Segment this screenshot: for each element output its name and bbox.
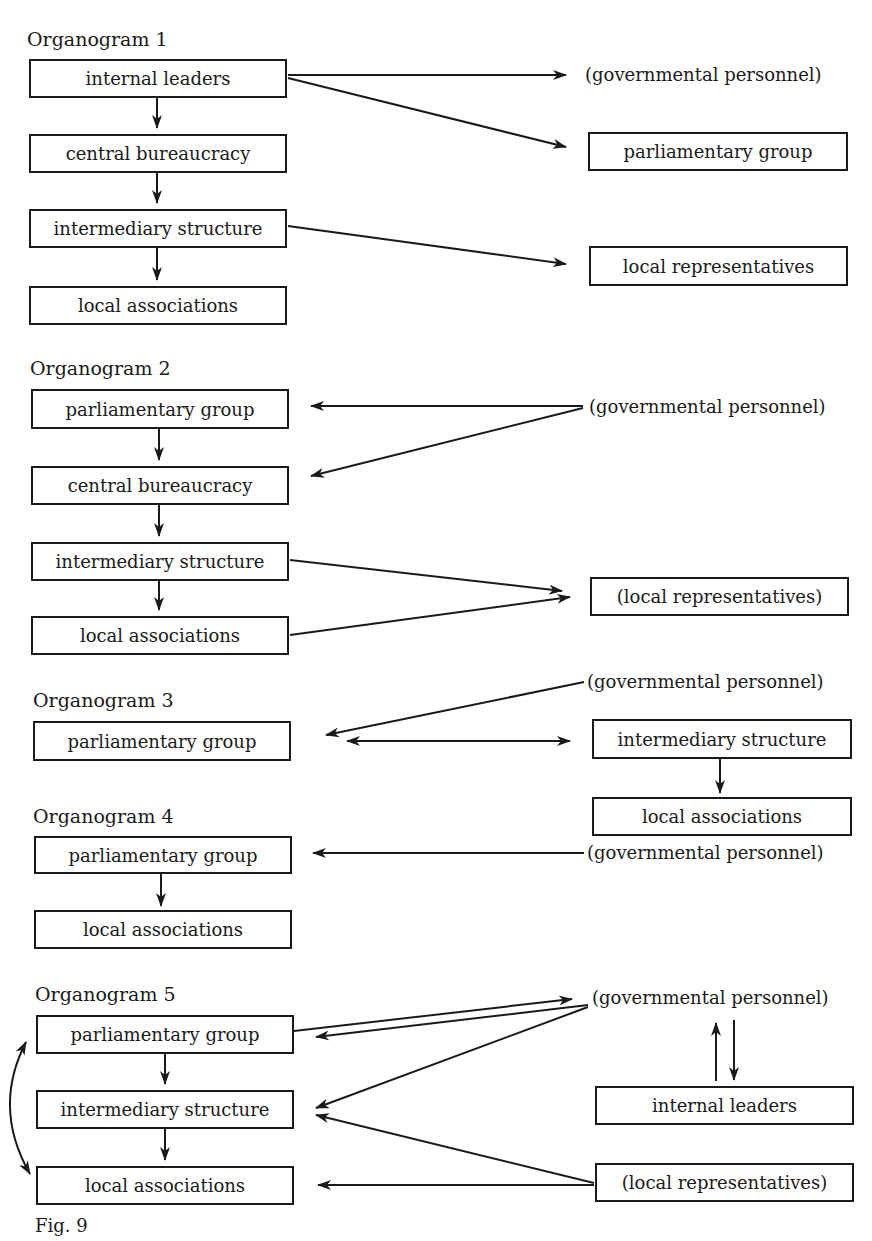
o4-label-governmental-personnel: (governmental personnel): [587, 842, 824, 864]
arrow-o5-gov-to-parl: [316, 1005, 588, 1037]
o4-box-local-associations: local associations: [34, 910, 292, 949]
arrow-o2-local-to-localrep: [290, 597, 570, 635]
organogram-4-title: Organogram 4: [33, 805, 174, 827]
organogram-1-title: Organogram 1: [27, 28, 168, 50]
o1-box-intermediary-structure: intermediary structure: [29, 209, 287, 248]
o5-box-local-representatives: (local representatives): [595, 1163, 854, 1202]
o3-box-local-associations: local associations: [592, 797, 852, 836]
organogram-5-title: Organogram 5: [35, 983, 176, 1005]
o1-box-local-representatives: local representatives: [589, 246, 848, 286]
arrow-o5-localrep-to-intermediary: [316, 1115, 594, 1183]
o1-box-central-bureaucracy: central bureaucracy: [29, 134, 287, 173]
o5-box-parliamentary-group: parliamentary group: [36, 1015, 294, 1054]
arrow-o1-leaders-to-parliamentary: [288, 78, 566, 147]
o2-box-parliamentary-group: parliamentary group: [31, 389, 289, 429]
o3-box-intermediary-structure: intermediary structure: [592, 719, 852, 759]
o2-box-local-representatives: (local representatives): [590, 577, 849, 616]
o3-box-parliamentary-group: parliamentary group: [33, 721, 291, 761]
arrow-o1-intermediary-to-localrep: [288, 226, 566, 264]
o1-box-local-associations: local associations: [29, 286, 287, 325]
o5-box-intermediary-structure: intermediary structure: [36, 1090, 294, 1129]
organogram-2-title: Organogram 2: [30, 357, 171, 379]
o5-box-internal-leaders: internal leaders: [595, 1086, 854, 1125]
o1-box-internal-leaders: internal leaders: [29, 59, 287, 98]
figure-caption: Fig. 9: [35, 1215, 88, 1236]
o1-label-governmental-personnel: (governmental personnel): [585, 64, 822, 86]
o5-label-governmental-personnel: (governmental personnel): [592, 987, 829, 1009]
o2-label-governmental-personnel: (governmental personnel): [589, 396, 826, 418]
arrow-o2-gov-to-bureaucracy: [311, 408, 583, 476]
o2-box-central-bureaucracy: central bureaucracy: [31, 466, 289, 505]
organogram-3-title: Organogram 3: [33, 689, 174, 711]
arrow-o5-gov-to-intermediary: [316, 1007, 588, 1108]
o4-box-parliamentary-group: parliamentary group: [34, 836, 292, 874]
arrow-o3-gov-to-parl: [326, 682, 584, 735]
o1-box-parliamentary-group: parliamentary group: [588, 132, 848, 171]
arrow-o5-parl-to-gov: [294, 999, 572, 1031]
arrow-o5-parl-local-curved-bidirectional: [10, 1042, 30, 1174]
o2-box-intermediary-structure: intermediary structure: [31, 542, 289, 581]
o3-label-governmental-personnel: (governmental personnel): [587, 671, 824, 693]
arrow-o2-intermediary-to-localrep: [290, 560, 562, 591]
o5-box-local-associations: local associations: [36, 1166, 294, 1205]
o2-box-local-associations: local associations: [31, 616, 289, 655]
